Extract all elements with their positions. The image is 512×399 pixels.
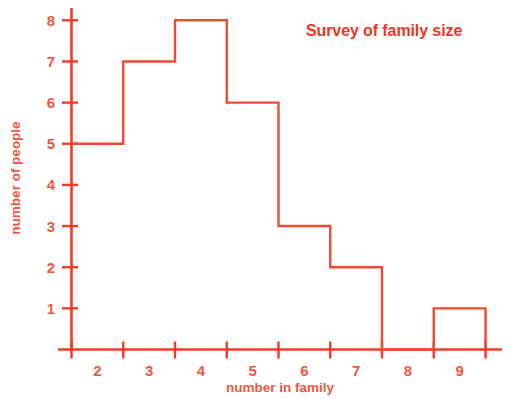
chart-title: Survey of family size: [306, 22, 462, 39]
histogram-svg: 12345678 23456789 number in family numbe…: [0, 0, 512, 399]
y-tick-label: 7: [47, 53, 55, 70]
x-tick-label: 7: [352, 362, 360, 379]
bar-group: [72, 20, 486, 349]
x-tick-label: 2: [93, 362, 101, 379]
x-axis-tick-labels: 23456789: [93, 362, 464, 379]
y-axis-ticks: [62, 20, 78, 308]
bar-2: [72, 144, 124, 350]
chart-container: 12345678 23456789 number in family numbe…: [0, 0, 512, 399]
y-tick-label: 4: [47, 176, 56, 193]
bar-9: [434, 308, 486, 349]
x-tick-label: 4: [197, 362, 206, 379]
bar-7: [330, 267, 382, 349]
y-tick-label: 2: [47, 259, 55, 276]
histogram-outline: [72, 20, 486, 349]
x-tick-label: 6: [300, 362, 308, 379]
y-axis-tick-labels: 12345678: [47, 12, 56, 317]
y-axis-title: number of people: [8, 121, 23, 235]
y-tick-label: 8: [47, 12, 55, 29]
bar-3: [123, 61, 175, 349]
bar-5: [227, 103, 279, 350]
x-tick-label: 9: [455, 362, 463, 379]
bar-4: [175, 20, 227, 349]
bar-6: [279, 226, 331, 349]
y-tick-label: 5: [47, 135, 55, 152]
x-axis-title: number in family: [226, 380, 335, 395]
y-tick-label: 3: [47, 218, 55, 235]
y-tick-label: 6: [47, 94, 55, 111]
x-tick-label: 8: [404, 362, 412, 379]
y-tick-label: 1: [47, 300, 55, 317]
x-tick-label: 5: [248, 362, 256, 379]
x-tick-label: 3: [145, 362, 153, 379]
